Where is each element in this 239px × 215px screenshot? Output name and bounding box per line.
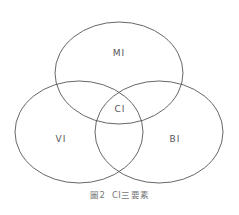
- label-mi: MI: [113, 48, 125, 58]
- ellipse-vi: [15, 81, 143, 183]
- label-vi: VI: [56, 134, 67, 144]
- label-bi: BI: [170, 134, 181, 144]
- venn-diagram: MI CI VI BI 圖2 CI三要素: [0, 0, 239, 215]
- ellipse-bi: [95, 81, 223, 183]
- figure-caption: 圖2 CI三要素: [90, 190, 150, 200]
- label-ci: CI: [115, 104, 126, 114]
